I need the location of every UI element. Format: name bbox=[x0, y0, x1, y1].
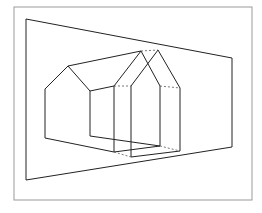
front-roof-left bbox=[114, 51, 141, 86]
eave-line bbox=[90, 86, 114, 91]
ridge-line bbox=[68, 51, 141, 66]
back-house bbox=[45, 51, 160, 152]
dashed-line-1 bbox=[160, 86, 180, 88]
perspective-diagram bbox=[0, 0, 262, 213]
dashed-line-3 bbox=[114, 152, 131, 157]
base-line-right bbox=[90, 136, 160, 146]
picture-plane bbox=[26, 19, 232, 180]
outer-frame bbox=[14, 7, 252, 200]
second-roof-left bbox=[131, 50, 158, 86]
base-line-left bbox=[45, 138, 114, 152]
back-house-outline bbox=[45, 66, 90, 138]
second-roof-right bbox=[158, 50, 180, 88]
dashed-line-4 bbox=[160, 146, 180, 151]
dashed-line-2 bbox=[141, 50, 158, 51]
base-back bbox=[114, 146, 160, 152]
